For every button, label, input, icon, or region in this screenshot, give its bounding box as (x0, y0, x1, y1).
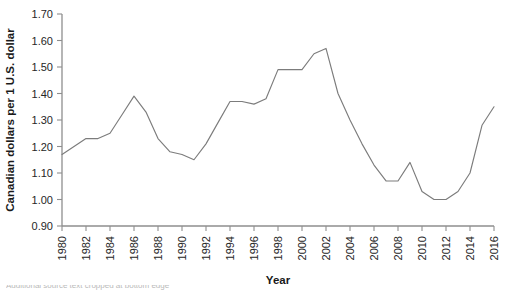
x-tick-label: 2006 (368, 236, 380, 260)
cropped-footer-text: Additional source text cropped at bottom… (6, 285, 256, 290)
chart-figure: 1.701.601.501.401.301.201.101.000.90 198… (0, 0, 514, 290)
x-tick-label: 2014 (464, 236, 476, 260)
y-tick-label: 1.20 (32, 141, 53, 153)
y-axis-title: Canadian dollars per 1 U.S. dollar (4, 28, 16, 212)
x-tick-label: 1996 (248, 236, 260, 260)
y-tick-label: 1.50 (32, 61, 53, 73)
x-tick-label: 1984 (104, 236, 116, 260)
x-tick-label: 2010 (416, 236, 428, 260)
y-tick-label: 0.90 (32, 220, 53, 232)
x-tick-label: 1998 (272, 236, 284, 260)
y-tick-label: 1.60 (32, 35, 53, 47)
data-series (62, 48, 494, 199)
line-chart: 1.701.601.501.401.301.201.101.000.90 198… (0, 0, 514, 290)
x-tick-label: 1994 (224, 236, 236, 260)
x-tick-label: 2016 (488, 236, 500, 260)
x-tick-label: 2008 (392, 236, 404, 260)
x-tick-label: 1988 (152, 236, 164, 260)
cropped-footer-label: Additional source text cropped at bottom… (6, 285, 256, 290)
x-axis-title: Year (266, 274, 291, 286)
y-tick-label: 1.00 (32, 194, 53, 206)
y-tick-label: 1.30 (32, 114, 53, 126)
y-tick-label: 1.40 (32, 88, 53, 100)
y-tick-label: 1.10 (32, 167, 53, 179)
x-axis-title-label: Year (266, 274, 291, 286)
x-tick-label: 1982 (80, 236, 92, 260)
x-tick-label: 2012 (440, 236, 452, 260)
x-tick-label: 2004 (344, 236, 356, 260)
y-axis-title-label: Canadian dollars per 1 U.S. dollar (4, 28, 16, 212)
y-tick-label: 1.70 (32, 8, 53, 20)
x-tick-label: 1990 (176, 236, 188, 260)
x-tick-label: 2002 (320, 236, 332, 260)
y-axis: 1.701.601.501.401.301.201.101.000.90 (32, 8, 62, 232)
x-tick-label: 2000 (296, 236, 308, 260)
x-axis: 1980198219841986198819901992199419961998… (56, 226, 500, 260)
x-tick-label: 1980 (56, 236, 68, 260)
series-line (62, 48, 494, 199)
x-tick-label: 1986 (128, 236, 140, 260)
x-tick-label: 1992 (200, 236, 212, 260)
